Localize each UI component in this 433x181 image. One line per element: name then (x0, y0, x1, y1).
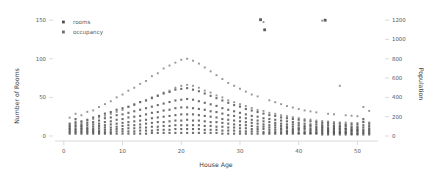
data-point (262, 126, 264, 128)
data-point (145, 113, 147, 115)
outlier-point (259, 18, 262, 21)
data-point (186, 84, 188, 86)
data-point (174, 87, 176, 89)
data-point (110, 129, 112, 131)
data-point (262, 113, 264, 115)
data-point (104, 103, 106, 105)
data-point (121, 133, 123, 135)
data-point (145, 80, 147, 82)
data-point (245, 121, 247, 123)
data-point (116, 119, 118, 121)
data-point (268, 129, 270, 131)
x-tick-label: 40 (295, 148, 302, 154)
data-point (116, 133, 118, 135)
legend-label-occupancy[interactable]: occupancy (73, 29, 104, 36)
data-point (233, 104, 235, 106)
data-point (86, 111, 88, 113)
data-point (268, 121, 270, 123)
data-point (139, 133, 141, 135)
data-point (192, 60, 194, 62)
data-point (263, 21, 265, 23)
data-point (309, 120, 311, 122)
data-point (333, 121, 335, 123)
data-point (210, 132, 212, 134)
data-point (75, 121, 77, 123)
data-point (157, 129, 159, 131)
data-point (333, 113, 335, 115)
data-point (180, 132, 182, 134)
data-point (280, 120, 282, 122)
data-point (116, 114, 118, 116)
data-point (280, 127, 282, 129)
data-point (192, 107, 194, 109)
data-point (139, 115, 141, 117)
data-point (151, 130, 153, 132)
data-point (315, 123, 317, 125)
data-point (198, 90, 200, 92)
data-point (215, 126, 217, 128)
data-point (221, 118, 223, 120)
data-point (257, 130, 259, 132)
data-point (204, 109, 206, 111)
data-point (257, 116, 259, 118)
data-point (180, 124, 182, 126)
data-point (274, 129, 276, 131)
data-point (239, 120, 241, 122)
data-point (133, 127, 135, 129)
data-point (304, 109, 306, 111)
data-point (163, 132, 165, 134)
data-point (98, 106, 100, 108)
data-point (215, 111, 217, 113)
data-point (298, 124, 300, 126)
data-point (315, 111, 317, 113)
data-point (139, 130, 141, 132)
data-point (157, 72, 159, 74)
data-point (80, 122, 82, 124)
data-point (174, 120, 176, 122)
data-point (245, 130, 247, 132)
data-point (80, 114, 82, 116)
data-point (268, 112, 270, 114)
data-point (121, 125, 123, 127)
data-point (309, 123, 311, 125)
data-point (339, 122, 341, 124)
data-point (362, 121, 364, 123)
data-point (186, 124, 188, 126)
data-point (221, 99, 223, 101)
data-point (157, 121, 159, 123)
data-point (339, 125, 341, 127)
data-point (204, 120, 206, 122)
y-left-tick-label: 150 (36, 17, 47, 23)
data-point (192, 120, 194, 122)
data-point (110, 111, 112, 113)
data-point (245, 113, 247, 115)
data-point (110, 120, 112, 122)
data-point (151, 96, 153, 98)
data-point (186, 119, 188, 121)
data-point (351, 126, 353, 128)
data-point (98, 115, 100, 117)
data-point (251, 119, 253, 121)
data-point (274, 115, 276, 117)
data-point (98, 120, 100, 122)
data-point (174, 62, 176, 64)
data-point (116, 109, 118, 111)
data-point (268, 99, 270, 101)
legend-label-rooms[interactable]: rooms (73, 19, 90, 25)
data-point (198, 114, 200, 116)
data-point (75, 124, 77, 126)
data-point (286, 117, 288, 119)
data-point (174, 128, 176, 130)
data-point (133, 116, 135, 118)
data-point (157, 116, 159, 118)
data-point (192, 89, 194, 91)
data-point (339, 85, 341, 87)
data-point (227, 123, 229, 125)
data-point (215, 132, 217, 134)
data-point (163, 103, 165, 105)
data-point (280, 123, 282, 125)
data-point (310, 110, 312, 112)
data-point (215, 97, 217, 99)
data-point (280, 116, 282, 118)
data-point (121, 107, 123, 109)
